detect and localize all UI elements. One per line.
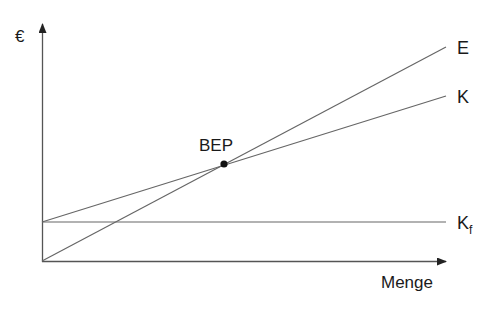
x-axis-label: Menge (381, 273, 433, 292)
break-even-diagram: € BEP E K Kf Menge (0, 0, 488, 313)
total-cost-line (42, 96, 446, 222)
fixed-cost-label: Kf (457, 213, 473, 237)
fixed-cost-label-main: K (457, 213, 469, 233)
revenue-line (42, 47, 446, 261)
revenue-label: E (457, 38, 469, 58)
fixed-cost-label-sub: f (469, 223, 473, 237)
bep-point (220, 160, 227, 167)
bep-label: BEP (199, 136, 233, 155)
y-axis-label: € (15, 27, 25, 46)
total-cost-label: K (457, 87, 469, 107)
